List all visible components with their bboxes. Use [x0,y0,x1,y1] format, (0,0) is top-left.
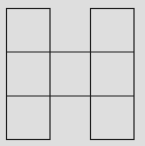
left-column [7,9,51,140]
h-shape-grid-diagram [0,0,145,146]
right-column [91,9,135,140]
